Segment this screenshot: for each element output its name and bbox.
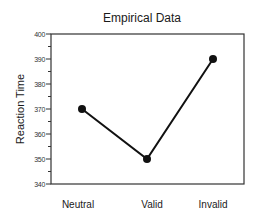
series-line [82,59,213,159]
y-axis-title: Reaction Time [14,74,26,144]
y-tick-label: 370 [34,106,45,113]
y-tick-label: 380 [34,81,45,88]
data-point-marker [209,55,217,63]
y-axis-label: Reaction Time [14,74,26,144]
x-category-label: Invalid [199,199,228,210]
x-category-label: Valid [141,199,163,210]
chart-title: Empirical Data [103,11,181,25]
chart: Empirical Data Reaction Time 34035036037… [0,0,257,222]
data-point-marker [78,105,86,113]
x-category-label: Neutral [62,199,94,210]
y-axis-ticks: 340350360370380390400 [34,31,51,188]
x-axis-labels: NeutralValidInvalid [62,199,228,210]
y-tick-label: 390 [34,56,45,63]
y-tick-label: 350 [34,156,45,163]
data-series [78,55,217,163]
data-point-marker [143,155,151,163]
y-tick-label: 400 [34,31,45,38]
y-tick-label: 360 [34,131,45,138]
y-tick-label: 340 [34,181,45,188]
